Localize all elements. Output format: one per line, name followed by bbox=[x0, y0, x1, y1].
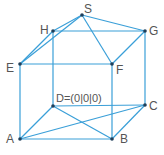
cube-pyramid-diagram: A B C D=(0|0|0) E F G H S bbox=[0, 0, 164, 155]
label-c: C bbox=[149, 99, 158, 113]
label-b: B bbox=[120, 132, 128, 146]
edge-db bbox=[53, 106, 112, 139]
edges bbox=[20, 15, 145, 139]
label-d: D=(0|0|0) bbox=[56, 92, 102, 104]
edge-sh bbox=[53, 15, 82, 31]
label-a: A bbox=[6, 132, 14, 146]
vertex-e bbox=[18, 62, 22, 66]
edge-sf bbox=[82, 15, 112, 64]
edge-sg bbox=[82, 15, 145, 31]
edge-cd bbox=[53, 105, 145, 106]
vertex-d bbox=[51, 104, 55, 108]
vertex-f bbox=[110, 62, 114, 66]
vertex-g bbox=[143, 29, 147, 33]
label-e: E bbox=[6, 61, 14, 75]
vertex-a bbox=[18, 137, 22, 141]
edge-fg bbox=[112, 31, 145, 64]
edge-se bbox=[20, 15, 82, 64]
label-s: S bbox=[84, 2, 92, 16]
vertex-c bbox=[143, 103, 147, 107]
label-h: H bbox=[40, 23, 49, 37]
vertex-b bbox=[110, 137, 114, 141]
vertex-h bbox=[51, 29, 55, 33]
label-f: F bbox=[116, 63, 123, 77]
vertex-labels: A B C D=(0|0|0) E F G H S bbox=[6, 2, 158, 146]
label-g: G bbox=[149, 24, 158, 38]
